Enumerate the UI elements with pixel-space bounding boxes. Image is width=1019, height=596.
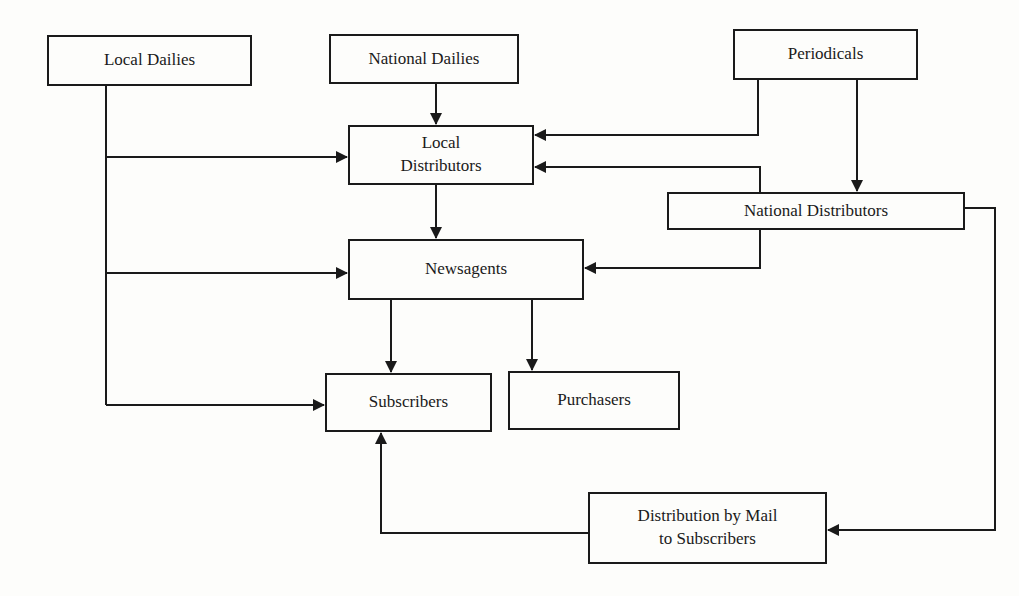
node-label: Local Dailies: [104, 49, 195, 72]
node-newsagents: Newsagents: [348, 239, 584, 300]
node-label: Purchasers: [557, 389, 631, 412]
node-label: Subscribers: [369, 391, 448, 414]
node-label-line1: Local: [422, 132, 461, 155]
edge-national-distributors-to-mail: [828, 208, 995, 530]
edge-mail-to-subscribers: [381, 433, 588, 533]
node-label-line2: to Subscribers: [659, 528, 756, 551]
node-label: National Dailies: [369, 48, 480, 71]
edge-national-distributors-to-local-distributors: [535, 167, 760, 192]
node-mail-distribution: Distribution by Mail to Subscribers: [588, 492, 827, 564]
node-periodicals: Periodicals: [733, 29, 918, 80]
node-label: Periodicals: [788, 43, 864, 66]
node-label-line1: Distribution by Mail: [638, 505, 778, 528]
node-label: National Distributors: [744, 200, 888, 223]
node-purchasers: Purchasers: [508, 371, 680, 430]
edge-periodicals-to-local-distributors: [535, 80, 758, 135]
node-subscribers: Subscribers: [325, 373, 492, 432]
edge-national-distributors-to-newsagents: [585, 230, 760, 268]
node-national-distributors: National Distributors: [667, 192, 965, 230]
node-national-dailies: National Dailies: [329, 34, 519, 84]
node-local-distributors: Local Distributors: [348, 125, 534, 185]
node-local-dailies: Local Dailies: [47, 35, 252, 86]
node-label: Newsagents: [425, 258, 507, 281]
node-label-line2: Distributors: [400, 155, 481, 178]
